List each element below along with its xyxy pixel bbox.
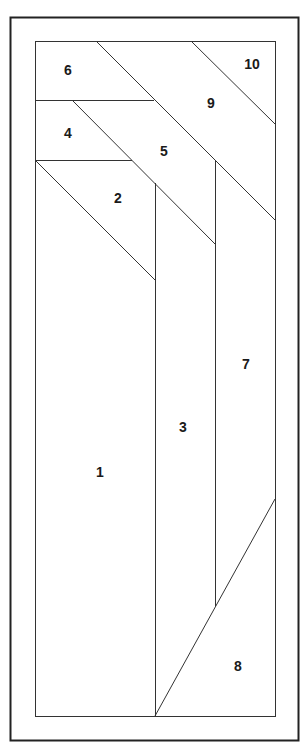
- piece-label-3: 3: [179, 419, 187, 435]
- piece-labels: 1 2 3 4 5 6 7 8 9 10: [64, 56, 260, 674]
- piece-label-6: 6: [64, 62, 72, 78]
- piece-label-10: 10: [244, 56, 260, 72]
- piece-label-4: 4: [64, 125, 72, 141]
- piece-label-9: 9: [207, 95, 215, 111]
- pattern-diagram: 1 2 3 4 5 6 7 8 9 10: [0, 0, 307, 751]
- piece-label-8: 8: [234, 658, 242, 674]
- piece-label-1: 1: [96, 464, 104, 480]
- outer-border: [11, 18, 299, 741]
- seam-9-10: [191, 41, 275, 124]
- seam-lines: [35, 41, 275, 716]
- seam-1-2: [35, 160, 155, 280]
- piece-label-5: 5: [160, 143, 168, 159]
- piece-label-2: 2: [114, 190, 122, 206]
- seam-4-5: [72, 100, 215, 244]
- piece-label-7: 7: [242, 356, 250, 372]
